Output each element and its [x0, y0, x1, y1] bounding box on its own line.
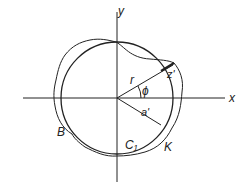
diagram-canvas: y x r ϕ z' a' B C₁ K — [0, 0, 247, 188]
diagram-drawing — [0, 0, 247, 188]
outer-curve-label: B — [57, 126, 65, 138]
angle-arc — [138, 86, 141, 98]
radius-label: r — [130, 74, 134, 86]
angle-label: ϕ — [142, 85, 149, 97]
y-axis-label: y — [118, 5, 124, 17]
circle-label: C₁ — [125, 139, 137, 151]
x-axis-label: x — [229, 92, 235, 104]
mean-radius-line — [117, 98, 161, 125]
displacement-label: z' — [167, 69, 175, 80]
inner-curve-label: K — [164, 141, 172, 153]
mean-radius-label: a' — [141, 107, 149, 118]
